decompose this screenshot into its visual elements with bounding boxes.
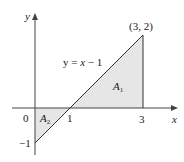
y-axis-label: y [24,10,30,22]
tick-x1: 1 [67,112,73,124]
curve-label: y = x − 1 [63,56,102,68]
origin-label: 0 [23,112,29,124]
y-axis-arrow-icon [32,13,38,20]
tick-x3: 3 [139,113,145,125]
x-axis-label: x [171,113,177,125]
tick-y-neg1: −1 [19,137,31,149]
point-label: (3, 2) [129,20,153,33]
area-diagram: y x 0 1 3 −1 (3, 2) y = x − 1 A1 A2 [0,0,184,162]
x-axis-arrow-icon [171,105,178,111]
